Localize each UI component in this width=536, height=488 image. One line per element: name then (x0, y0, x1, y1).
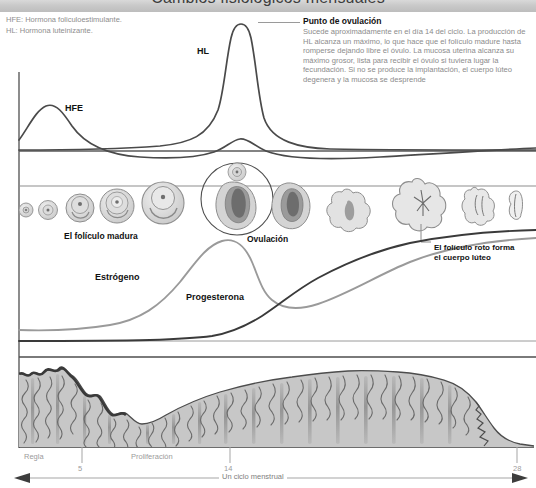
curve-hl (19, 24, 536, 150)
ovary-follicle-stage-1 (19, 203, 33, 217)
tick-label-28: 28 (513, 464, 521, 473)
label-ovulation: Ovulación (247, 234, 288, 244)
released-ovum (228, 163, 246, 181)
ovary-follicle-stage-2 (39, 201, 58, 220)
phase-label-proliferation: Proliferación (131, 452, 173, 461)
corpus-albicans (509, 191, 522, 219)
endometrium-layer (19, 368, 534, 457)
cycle-arrow-right (512, 473, 528, 483)
curve-label-hfe: HFE (65, 103, 83, 113)
ruptured-follicle-ovulation (216, 182, 256, 229)
cycle-duration-label: Un ciclo menstrual (219, 472, 287, 481)
diagram-root: Cambios fisiológicos mensuales HFE: Horm… (0, 0, 536, 488)
corpus-luteum-young (327, 189, 370, 232)
curve-label-progesterone: Progesterona (186, 292, 244, 302)
ovary-follicle-stage-4 (100, 189, 134, 223)
curve-label-estrogen: Estrógeno (95, 272, 140, 282)
cycle-arrow-left (14, 473, 30, 483)
label-follicle-matures: El folículo madura (64, 231, 138, 241)
label-corpus-luteum-line2: el cuerpo lúteo (434, 253, 514, 263)
curve-label-hl: HL (197, 46, 209, 56)
ovary-follicle-stage-5-mature (142, 182, 184, 224)
tick-label-5: 5 (78, 464, 82, 473)
ruptured-follicle-post (272, 183, 310, 229)
phase-label-menstruation: Regla (24, 452, 44, 461)
label-corpus-luteum: El folículo roto forma el cuerpo lúteo (434, 243, 514, 263)
ovary-follicle-stage-3 (66, 194, 94, 222)
corpus-luteum-regressing (462, 187, 494, 225)
label-corpus-luteum-line1: El folículo roto forma (434, 243, 514, 253)
